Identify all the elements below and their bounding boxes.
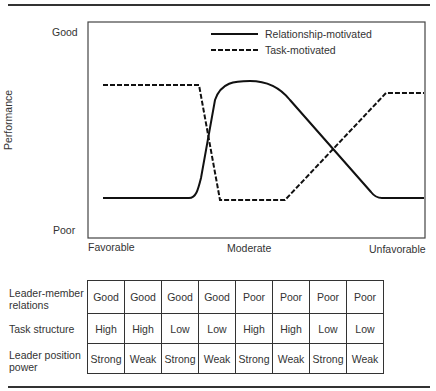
plot-frame (88, 22, 425, 238)
table-cell: Strong (310, 344, 347, 374)
table-cell: Weak (199, 344, 236, 374)
table-cell: Low (347, 314, 384, 344)
series-relationship-motivated (103, 81, 424, 198)
row-label-leader-member-relations: Leader-member relations (9, 287, 84, 311)
table-cell: Strong (162, 344, 199, 374)
row-label-line: Leader-member (9, 287, 84, 299)
table-cell: Low (310, 314, 347, 344)
table-cell: Good (199, 281, 236, 314)
table-cell: Strong (88, 344, 125, 374)
table-cell: Low (162, 314, 199, 344)
table-row-position-power: Strong Weak Strong Weak Strong Weak Stro… (88, 344, 384, 374)
x-tick-unfavorable: Unfavorable (369, 243, 426, 255)
table-cell: Weak (347, 344, 384, 374)
table-cell: Poor (273, 281, 310, 314)
table-cell: High (273, 314, 310, 344)
x-tick-moderate: Moderate (227, 242, 271, 254)
table-cell: Strong (236, 344, 273, 374)
table-cell: Weak (273, 344, 310, 374)
legend-relationship-label: Relationship-motivated (265, 28, 372, 40)
table-cell: Poor (347, 281, 384, 314)
y-axis-label: Performance (2, 90, 14, 150)
table-row-task-structure: High High Low Low High High Low Low (88, 314, 384, 344)
series-task-motivated (103, 85, 424, 200)
row-label-task-structure: Task structure (9, 323, 74, 335)
table-cell: Poor (310, 281, 347, 314)
table-cell: Good (88, 281, 125, 314)
y-tick-poor: Poor (53, 224, 75, 236)
bottom-rule (8, 386, 430, 388)
table-row-relations: Good Good Good Good Poor Poor Poor Poor (88, 281, 384, 314)
legend-task-label: Task-motivated (265, 44, 336, 56)
table-cell: Good (162, 281, 199, 314)
row-label-line: Leader position (9, 349, 81, 361)
table-cell: High (236, 314, 273, 344)
table-cell: High (125, 314, 162, 344)
table-cell: Low (199, 314, 236, 344)
row-label-leader-position-power: Leader position power (9, 349, 81, 373)
row-label-line: power (9, 361, 81, 373)
x-tick-favorable: Favorable (88, 241, 135, 253)
y-tick-good: Good (52, 26, 78, 38)
table-cell: High (88, 314, 125, 344)
conditions-table: Good Good Good Good Poor Poor Poor Poor … (87, 280, 384, 374)
table-cell: Poor (236, 281, 273, 314)
table-cell: Weak (125, 344, 162, 374)
table-cell: Good (125, 281, 162, 314)
row-label-line: relations (9, 299, 84, 311)
